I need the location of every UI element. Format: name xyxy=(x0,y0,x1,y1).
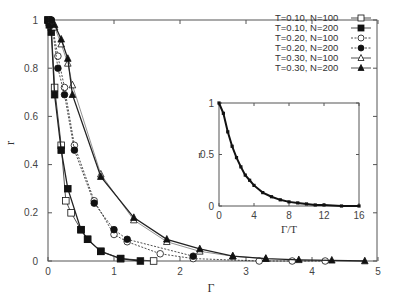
y-tick-0.8: 0.8 xyxy=(24,63,38,74)
square-marker xyxy=(226,130,229,133)
circle-marker xyxy=(358,35,364,41)
y-tick-0: 0 xyxy=(32,256,38,267)
inset-y-tick-1: 1 xyxy=(208,98,214,109)
circle-marker xyxy=(124,236,131,243)
triangle-marker xyxy=(358,55,364,61)
legend: T=0.10, N=100 T=0.10, N=200 T=0.20, N=10… xyxy=(275,12,371,73)
inset-x-tick-0: 0 xyxy=(216,210,222,221)
inset-x-tick-16: 16 xyxy=(353,210,365,221)
square-marker xyxy=(51,91,58,98)
square-marker xyxy=(340,204,343,207)
inset-plot: 1 0.5 0 0 4 8 12 16 Γ/T r xyxy=(198,98,365,235)
square-marker xyxy=(358,15,364,21)
y-tick-0.2: 0.2 xyxy=(24,207,38,218)
square-marker xyxy=(63,197,70,204)
square-marker xyxy=(235,156,238,159)
series-line-0 xyxy=(48,20,154,261)
square-marker xyxy=(357,204,360,207)
square-marker xyxy=(150,258,157,265)
square-marker xyxy=(248,179,251,182)
figure: 1 0.8 0.6 0.4 0.2 0 0 1 2 3 4 5 Γ r T=0.… xyxy=(0,0,396,303)
inset-y-tick-0: 0 xyxy=(208,201,214,212)
circle-marker xyxy=(71,147,78,154)
circle-marker xyxy=(91,200,98,207)
square-marker xyxy=(314,203,317,206)
square-marker xyxy=(117,255,124,262)
x-tick-2: 2 xyxy=(177,266,183,277)
square-marker xyxy=(252,184,255,187)
circle-marker xyxy=(61,84,68,91)
square-marker xyxy=(279,198,282,201)
square-marker xyxy=(84,236,91,243)
square-marker xyxy=(65,185,72,192)
triangle-marker xyxy=(164,236,171,243)
circle-marker xyxy=(61,91,68,98)
square-marker xyxy=(261,191,264,194)
circle-marker xyxy=(289,258,296,265)
circle-marker xyxy=(111,226,118,233)
square-marker xyxy=(98,248,105,255)
inset-x-tick-4: 4 xyxy=(251,210,257,221)
triangle-marker xyxy=(69,81,76,88)
square-marker xyxy=(287,200,290,203)
y-tick-1: 1 xyxy=(32,15,38,26)
legend-samples xyxy=(351,15,371,71)
inset-x-axis-label: Γ/T xyxy=(281,223,297,235)
square-marker xyxy=(137,258,144,265)
square-marker xyxy=(239,165,242,168)
series-line-1 xyxy=(48,20,140,261)
inset-x-tick-8: 8 xyxy=(286,210,292,221)
square-marker xyxy=(68,210,75,217)
square-marker xyxy=(58,147,65,154)
circle-marker xyxy=(322,258,329,265)
square-marker xyxy=(305,202,308,205)
x-tick-1: 1 xyxy=(111,266,117,277)
square-marker xyxy=(358,25,364,31)
square-marker xyxy=(270,195,273,198)
series-line-3 xyxy=(51,20,193,256)
x-axis-label: Γ xyxy=(208,281,215,295)
inset-x-tick-12: 12 xyxy=(318,210,330,221)
y-axis-label: r xyxy=(3,141,17,145)
square-marker xyxy=(78,226,85,233)
circle-marker xyxy=(55,53,62,60)
square-marker xyxy=(296,201,299,204)
circle-marker xyxy=(55,65,62,72)
x-tick-0: 0 xyxy=(45,266,51,277)
x-tick-4: 4 xyxy=(309,266,315,277)
triangle-marker xyxy=(358,65,364,71)
x-tick-3: 3 xyxy=(243,266,249,277)
inset-y-axis-label: r xyxy=(198,148,202,160)
circle-marker xyxy=(157,250,164,257)
legend-label-5: T=0.30, N=200 xyxy=(275,62,338,73)
inset-y-tick-0.5: 0.5 xyxy=(200,149,214,160)
square-marker xyxy=(322,203,325,206)
square-marker xyxy=(244,174,247,177)
square-marker xyxy=(217,101,220,104)
inset-frame xyxy=(219,103,359,206)
circle-marker xyxy=(190,253,197,260)
y-tick-0.6: 0.6 xyxy=(24,111,38,122)
square-marker xyxy=(222,112,225,115)
x-tick-5: 5 xyxy=(375,266,381,277)
y-tick-0.4: 0.4 xyxy=(24,159,38,170)
square-marker xyxy=(231,145,234,148)
circle-marker xyxy=(358,45,364,51)
